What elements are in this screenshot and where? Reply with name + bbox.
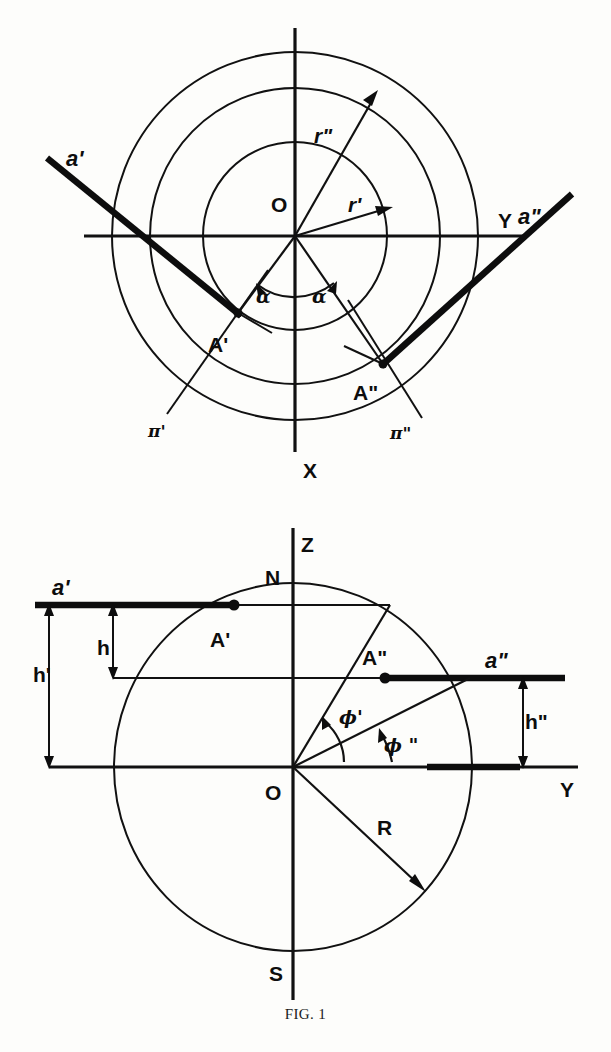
a-prime-tangent-tick: [238, 313, 272, 333]
radius-label-r-prime: r': [348, 193, 362, 216]
angle-label-phi-prime: ϕ': [339, 706, 363, 728]
dim-label-h: h: [97, 636, 110, 659]
top-y-axis-label: Y: [498, 209, 512, 232]
radius-R-line: [293, 767, 418, 884]
bottom-point-a-prime-dot: [229, 600, 240, 611]
north-pole-label: N: [265, 566, 280, 589]
angle-label-alpha-left: α: [256, 285, 271, 307]
dim-label-h-double-prime: h": [525, 710, 548, 733]
radius-label-r-double-prime: r": [314, 124, 333, 147]
bottom-ray-label-a-double-prime: a": [485, 648, 508, 673]
bottom-point-label-a-prime: A': [210, 628, 230, 651]
top-ray-label-a-prime: a': [66, 146, 84, 171]
bottom-panel-group: Z N S Y O a' a" A' A" h h' h" ϕ' ϕ " R: [33, 528, 578, 1000]
top-origin-label: O: [271, 193, 287, 216]
point-a-prime-dot: [234, 309, 243, 318]
south-pole-label: S: [269, 962, 283, 985]
radius-label-R: R: [377, 816, 392, 839]
dim-label-h-prime: h': [33, 663, 51, 686]
point-a-double-prime-dot: [379, 360, 388, 369]
top-ray-label-a-double-prime: a": [518, 204, 541, 229]
bottom-origin-label: O: [265, 781, 281, 804]
plane-trace-label-pi-double-prime: π": [389, 423, 411, 443]
angle-label-alpha-right: α: [312, 285, 327, 307]
bottom-z-axis-label: Z: [301, 533, 314, 556]
figure-container: O Y X r' r" a' a" A' A" α α π' π": [0, 0, 611, 1052]
top-point-label-a-prime: A': [208, 333, 228, 356]
plane-trace-label-pi-prime: π': [147, 421, 166, 441]
origin-to-a-double-prime-line: [295, 236, 383, 364]
top-point-label-a-double-prime: A": [353, 381, 378, 404]
bottom-y-axis-label: Y: [560, 778, 574, 801]
figure-caption: FIG. 1: [0, 1006, 611, 1023]
bottom-point-label-a-double-prime: A": [362, 646, 387, 669]
top-x-axis-label: X: [303, 459, 317, 482]
angle-label-phi-double-prime: ϕ ": [384, 734, 418, 756]
bottom-ray-label-a-prime: a': [52, 575, 70, 600]
bottom-point-a-double-prime-dot: [380, 673, 391, 684]
radius-vector-r-double-prime-arrowhead: [363, 90, 378, 106]
top-panel-group: O Y X r' r" a' a" A' A" α α π' π": [47, 28, 572, 482]
figure-1-svg: O Y X r' r" a' a" A' A" α α π' π": [0, 0, 611, 1052]
